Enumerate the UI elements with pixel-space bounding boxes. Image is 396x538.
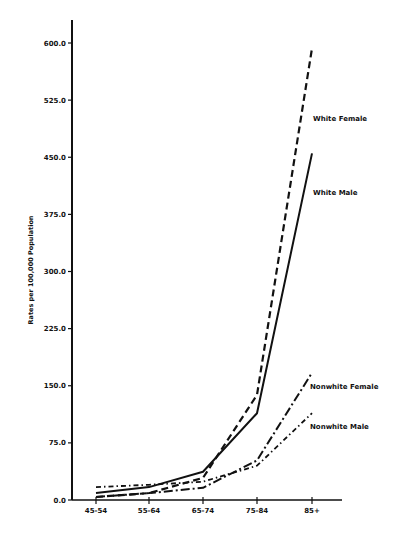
x-tick-label: 55-64 xyxy=(138,507,161,515)
y-tick-label: 525.0 xyxy=(44,97,66,105)
y-tick-label: 600.0 xyxy=(44,40,66,48)
series-white-female xyxy=(96,48,312,497)
y-tick-label: 225.0 xyxy=(44,325,66,333)
x-tick-label: 45-54 xyxy=(85,507,108,515)
series-label: Nonwhite Male xyxy=(310,423,369,431)
series-label: Nonwhite Female xyxy=(310,383,379,391)
series-lines xyxy=(96,48,312,497)
series-label: White Female xyxy=(313,115,367,123)
x-tick-label: 65-74 xyxy=(192,507,215,515)
x-axis: 45-5455-6465-7475-8485+ xyxy=(72,497,342,515)
x-tick-label: 85+ xyxy=(304,507,320,515)
y-tick-label: 450.0 xyxy=(44,154,66,162)
series-white-male xyxy=(96,153,312,493)
y-tick-label: 375.0 xyxy=(44,211,66,219)
series-nonwhite-female xyxy=(96,373,312,497)
line-chart: 0.075.0150.0225.0300.0375.0450.0525.0600… xyxy=(0,0,396,538)
series-labels: White FemaleWhite MaleNonwhite FemaleNon… xyxy=(310,115,379,431)
x-tick-label: 75-84 xyxy=(246,507,269,515)
y-axis: 0.075.0150.0225.0300.0375.0450.0525.0600… xyxy=(44,20,72,505)
y-tick-label: 75.0 xyxy=(49,439,66,447)
y-tick-label: 300.0 xyxy=(44,268,66,276)
series-label: White Male xyxy=(313,189,358,197)
y-tick-label: 0.0 xyxy=(54,497,67,505)
y-tick-label: 150.0 xyxy=(44,382,66,390)
y-axis-title: Rates per 100,000 Population xyxy=(27,215,35,324)
